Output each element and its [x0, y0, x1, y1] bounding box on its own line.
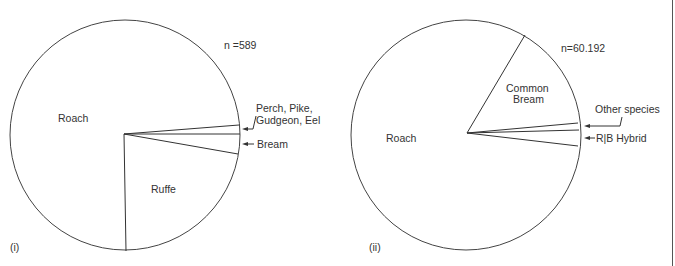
panel-label-i: (i) [10, 241, 19, 253]
panel-label-ii: (ii) [369, 241, 381, 253]
arrow-icon [242, 142, 248, 146]
n-annotation: n=60.192 [561, 42, 605, 54]
slice-label-hybrid: R|B Hybrid [596, 132, 647, 144]
slice-label-roach: Roach [58, 112, 89, 124]
slice-label-roach: Roach [386, 132, 417, 144]
pie-charts-figure: Roach Ruffe n =589 Perch, Pike, Gudgeon,… [0, 0, 675, 266]
pie-chart-ii: Roach Common Bream n=60.192 Other specie… [351, 20, 660, 253]
leader-line-other [589, 117, 622, 126]
slice-label-common-line2: Bream [513, 93, 544, 105]
slice-label-perch-line1: Perch, Pike, [256, 102, 313, 114]
right-border-line [672, 0, 673, 266]
n-annotation: n =589 [224, 39, 257, 51]
slice-label-perch-line2: Gudgeon, Eel [256, 114, 320, 126]
slice-label-bream: Bream [257, 138, 288, 150]
slice-label-ruffe: Ruffe [151, 183, 176, 195]
arrow-icon [242, 127, 248, 131]
arrow-icon [584, 124, 590, 128]
arrow-icon [584, 136, 590, 140]
pie-chart-i: Roach Ruffe n =589 Perch, Pike, Gudgeon,… [10, 20, 320, 253]
leader-line-perch [246, 116, 256, 129]
slice-label-other: Other species [595, 103, 660, 115]
